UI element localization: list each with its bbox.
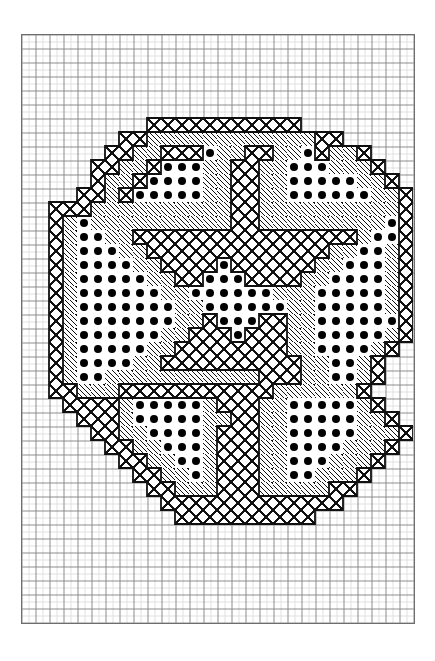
cell-diagonal-hatch <box>133 160 147 174</box>
cell-filled-dot <box>315 188 329 202</box>
cell-diagonal-hatch <box>273 426 287 440</box>
cell-cross-hatch <box>231 342 245 356</box>
cell-filled-dot <box>329 314 343 328</box>
cell-filled-dot <box>147 398 161 412</box>
cell-cross-hatch <box>189 356 203 370</box>
stitch-chart-grid <box>21 34 413 622</box>
cell-diagonal-hatch <box>315 356 329 370</box>
cell-cross-hatch <box>245 342 259 356</box>
cell-filled-dot <box>91 244 105 258</box>
cell-cross-hatch <box>301 230 315 244</box>
cell-diagonal-hatch <box>217 370 231 384</box>
cell-diagonal-hatch <box>301 328 315 342</box>
cell-filled-dot <box>329 286 343 300</box>
cell-filled-dot <box>91 300 105 314</box>
cell-cross-hatch <box>175 146 189 160</box>
cell-diagonal-hatch <box>105 174 119 188</box>
cell-filled-dot <box>301 160 315 174</box>
cell-diagonal-hatch <box>287 384 301 398</box>
cell-diagonal-hatch <box>343 146 357 160</box>
cell-diagonal-hatch <box>259 482 273 496</box>
cell-filled-dot <box>329 412 343 426</box>
cell-filled-dot <box>203 146 217 160</box>
cell-cross-hatch <box>385 440 399 454</box>
cell-cross-hatch <box>231 160 245 174</box>
cell-cross-hatch <box>203 356 217 370</box>
cell-cross-hatch <box>231 496 245 510</box>
cell-diagonal-hatch <box>203 426 217 440</box>
cell-cross-hatch <box>77 412 91 426</box>
cell-cross-hatch <box>49 216 63 230</box>
cell-cross-hatch <box>77 398 91 412</box>
cell-cross-hatch <box>245 216 259 230</box>
cell-cross-hatch <box>231 384 245 398</box>
cell-cross-hatch <box>357 384 371 398</box>
cell-cross-hatch <box>259 230 273 244</box>
cell-cross-hatch <box>231 118 245 132</box>
cell-filled-dot <box>77 356 91 370</box>
cell-diagonal-hatch <box>357 216 371 230</box>
cell-cross-hatch <box>189 384 203 398</box>
cell-diagonal-hatch <box>175 328 189 342</box>
cell-diagonal-hatch <box>301 286 315 300</box>
cell-cross-hatch <box>231 412 245 426</box>
cell-diagonal-hatch <box>203 174 217 188</box>
cell-cross-hatch <box>49 272 63 286</box>
cell-diagonal-hatch <box>385 328 399 342</box>
cell-diagonal-hatch <box>273 454 287 468</box>
cell-cross-hatch <box>245 440 259 454</box>
cell-filled-dot <box>77 230 91 244</box>
cell-cross-hatch <box>399 230 413 244</box>
cell-filled-dot <box>287 412 301 426</box>
cell-filled-dot <box>105 286 119 300</box>
cell-cross-hatch <box>259 272 273 286</box>
cell-filled-dot <box>175 174 189 188</box>
cell-filled-dot <box>175 440 189 454</box>
cell-cross-hatch <box>259 342 273 356</box>
cell-diagonal-hatch <box>315 468 329 482</box>
cell-filled-dot <box>329 426 343 440</box>
cell-diagonal-hatch <box>343 160 357 174</box>
cell-cross-hatch <box>245 482 259 496</box>
cell-cross-hatch <box>357 146 371 160</box>
cell-cross-hatch <box>217 482 231 496</box>
cell-diagonal-hatch <box>259 174 273 188</box>
cell-cross-hatch <box>301 258 315 272</box>
cell-filled-dot <box>329 272 343 286</box>
cell-diagonal-hatch <box>105 202 119 216</box>
cell-filled-dot <box>175 188 189 202</box>
cell-diagonal-hatch <box>175 216 189 230</box>
cell-filled-dot <box>189 426 203 440</box>
cell-cross-hatch <box>105 398 119 412</box>
cell-diagonal-hatch <box>329 216 343 230</box>
cell-filled-dot <box>105 328 119 342</box>
cell-diagonal-hatch <box>273 160 287 174</box>
cell-cross-hatch <box>175 496 189 510</box>
cell-filled-dot <box>273 300 287 314</box>
cell-diagonal-hatch <box>301 482 315 496</box>
cell-filled-dot <box>91 286 105 300</box>
cell-diagonal-hatch <box>203 454 217 468</box>
cell-cross-hatch <box>231 216 245 230</box>
cell-cross-hatch <box>231 202 245 216</box>
cell-diagonal-hatch <box>189 202 203 216</box>
cell-cross-hatch <box>231 356 245 370</box>
cell-cross-hatch <box>245 258 259 272</box>
cell-diagonal-hatch <box>329 468 343 482</box>
cell-cross-hatch <box>203 230 217 244</box>
cell-filled-dot <box>217 300 231 314</box>
cell-diagonal-hatch <box>161 272 175 286</box>
cell-diagonal-hatch <box>287 146 301 160</box>
cell-cross-hatch <box>385 412 399 426</box>
cell-diagonal-hatch <box>385 272 399 286</box>
cell-diagonal-hatch <box>119 160 133 174</box>
cell-diagonal-hatch <box>133 244 147 258</box>
cell-cross-hatch <box>147 230 161 244</box>
cell-filled-dot <box>119 286 133 300</box>
cell-diagonal-hatch <box>329 202 343 216</box>
cell-diagonal-hatch <box>217 216 231 230</box>
cell-filled-dot <box>329 342 343 356</box>
cell-diagonal-hatch <box>119 370 133 384</box>
cell-filled-dot <box>287 188 301 202</box>
cell-filled-dot <box>287 426 301 440</box>
